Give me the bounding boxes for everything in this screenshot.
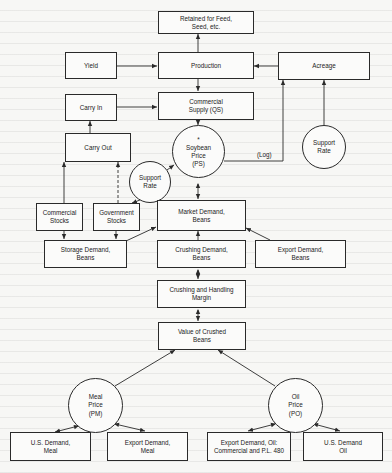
node-market-demand: Market Demand, Beans <box>157 200 246 231</box>
node-label: Production <box>191 62 221 70</box>
node-label: Export Demand, Oil: Commercial and P.L. … <box>214 439 284 455</box>
node-value-crushed-beans: Value of Crushed Beans <box>158 322 246 350</box>
node-export-demand-meal: Export Demand, Meal <box>107 432 188 461</box>
node-soybean-price: * Soybean Price (PS) <box>172 125 225 178</box>
node-export-demand-oil: Export Demand, Oil: Commercial and P.L. … <box>207 432 291 461</box>
node-support-rate-acreage: Support Rate <box>302 125 346 169</box>
node-export-demand-beans: Export Demand, Beans <box>255 240 346 268</box>
node-label: Commercial Supply (QS) <box>189 98 223 114</box>
node-carry-out: Carry Out <box>65 133 131 162</box>
node-commercial-supply: Commercial Supply (QS) <box>158 92 254 120</box>
node-meal-price: Meal Price (PM) <box>68 378 123 433</box>
node-commercial-stocks: Commercial Stocks <box>36 203 83 231</box>
node-acreage: Acreage <box>278 52 370 80</box>
node-label: Crushing Demand, Beans <box>175 246 228 262</box>
node-label: Carry Out <box>84 144 111 152</box>
node-carry-in: Carry In <box>65 94 117 121</box>
node-label: Storage Demand, Beans <box>61 246 110 262</box>
lag-label: (Log) <box>257 151 272 158</box>
node-label: Export Demand, Meal <box>125 439 171 455</box>
node-support-rate-stocks: Support Rate <box>129 161 171 203</box>
node-label: Retained for Feed, Seed, etc. <box>180 15 232 31</box>
node-crushing-demand: Crushing Demand, Beans <box>157 240 246 268</box>
node-label: Acreage <box>312 62 335 70</box>
node-label: Value of Crushed Beans <box>178 328 226 344</box>
node-label: Market Demand, Beans <box>178 208 225 224</box>
node-government-stocks: Government Stocks <box>93 203 140 231</box>
node-crushing-margin: Crushing and Handling Margin <box>157 280 246 308</box>
node-yield: Yield <box>65 52 117 79</box>
node-storage-demand: Storage Demand, Beans <box>44 240 127 268</box>
node-label: Government Stocks <box>99 209 134 225</box>
node-production: Production <box>158 52 254 79</box>
node-oil-price: Oil Price (PO) <box>268 378 323 433</box>
node-label: Commercial Stocks <box>43 209 77 225</box>
node-us-demand-meal: U.S. Demand, Meal <box>10 432 91 461</box>
node-label: Crushing and Handling Margin <box>169 286 233 302</box>
node-label: Yield <box>84 62 98 70</box>
node-us-demand-oil: U.S. Demand Oil <box>303 432 383 461</box>
node-label: U.S. Demand Oil <box>324 439 362 455</box>
node-label: Export Demand, Beans <box>278 246 324 262</box>
node-retained-for-feed: Retained for Feed, Seed, etc. <box>158 11 254 34</box>
node-label: U.S. Demand, Meal <box>31 439 71 455</box>
node-label: Carry In <box>80 104 102 112</box>
